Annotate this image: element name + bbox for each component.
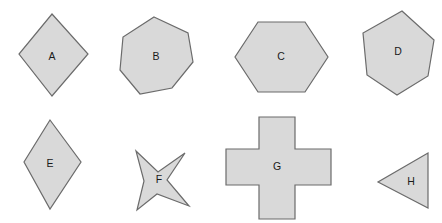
diamond-square-polygon[interactable]	[19, 14, 88, 96]
shape-d[interactable]: D	[363, 11, 434, 95]
shape-diagram: ABCDEFGH	[0, 0, 442, 223]
hexagon-rotated-polygon[interactable]	[363, 11, 434, 95]
shape-f[interactable]: F	[136, 151, 189, 210]
triangle-left-pointing-polygon[interactable]	[378, 153, 428, 208]
shape-e[interactable]: E	[24, 120, 81, 209]
heptagon-polygon[interactable]	[120, 17, 193, 94]
hexagon-flat-top-polygon[interactable]	[235, 22, 328, 92]
shape-c[interactable]: C	[235, 22, 328, 92]
rhombus-tall-polygon[interactable]	[24, 120, 81, 209]
shape-g[interactable]: G	[226, 117, 331, 219]
four-pointed-star-polygon[interactable]	[136, 151, 189, 210]
greek-cross-polygon[interactable]	[226, 117, 331, 219]
shape-b[interactable]: B	[120, 17, 193, 94]
shape-figure-canvas: ABCDEFGH	[0, 0, 442, 223]
shapes-group: ABCDEFGH	[19, 11, 434, 219]
shape-a[interactable]: A	[19, 14, 88, 96]
shape-h[interactable]: H	[378, 153, 428, 208]
